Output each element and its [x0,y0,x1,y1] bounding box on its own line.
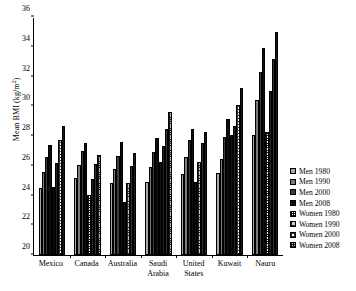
x-axis-category-label: Nauru [247,259,283,278]
y-tick-label: 28 [22,123,34,132]
x-tick-mark [70,255,71,258]
bar-group [247,18,283,255]
bar[interactable] [133,153,136,255]
legend-label: Men 2000 [299,188,330,197]
bar-group [141,18,177,255]
legend-label: Men 1980 [299,167,330,176]
bar[interactable] [97,155,100,255]
legend-item[interactable]: Women 2000 [290,230,340,241]
legend-item[interactable]: Men 2008 [290,198,340,209]
y-tick-label: 24 [22,182,34,191]
bar-group [105,18,141,255]
bar-group [176,18,212,255]
y-tick-label: 26 [22,152,34,161]
y-tick-mark [31,16,34,17]
legend-swatch-icon [290,242,296,248]
x-tick-mark [141,255,142,258]
y-axis-label: Mean BMI (kg/m2) [11,59,22,159]
bar-groups [34,18,283,255]
x-tick-mark [105,255,106,258]
y-tick-label: 34 [22,33,34,42]
y-axis-label-exponent: 2 [11,80,17,83]
x-axis-labels: MexicoCanadaAustraliaSaudiArabiaUnitedSt… [33,259,283,278]
legend: Men 1980Men 1990Men 2000Men 2008Women 19… [290,166,340,251]
y-tick-label: 22 [22,212,34,221]
bar-group [34,18,70,255]
legend-label: Women 1980 [299,209,340,218]
x-axis-category-label: UnitedStates [176,259,212,278]
x-axis-category-label: Canada [69,259,105,278]
legend-swatch-icon [290,179,296,185]
x-tick-mark [247,255,248,258]
bar-group [212,18,248,255]
legend-swatch-icon [290,189,296,195]
legend-label: Men 2008 [299,199,330,208]
y-tick-label: 32 [22,63,34,72]
x-axis-category-label: Kuwait [212,259,248,278]
legend-swatch-icon [290,168,296,174]
x-axis-category-label: Australia [104,259,140,278]
x-axis-category-label: Mexico [33,259,69,278]
bmi-bar-chart: Mean BMI (kg/m2) 202224262830323436 Mexi… [0,0,356,291]
y-tick-label: 30 [22,93,34,102]
legend-item[interactable]: Men 1990 [290,177,340,188]
bar[interactable] [204,132,207,255]
legend-label: Women 2008 [299,241,340,250]
legend-swatch-icon [290,232,296,238]
legend-label: Men 1990 [299,177,330,186]
legend-swatch-icon [290,211,296,217]
bar[interactable] [62,126,65,255]
legend-item[interactable]: Men 2000 [290,187,340,198]
y-tick-label: 20 [22,242,34,251]
legend-item[interactable]: Women 1990 [290,219,340,230]
y-axis-label-main: Mean BMI (kg/m [12,83,21,141]
bar[interactable] [240,88,243,255]
legend-item[interactable]: Women 2008 [290,240,340,251]
legend-label: Women 2000 [299,230,340,239]
y-tick-label: 36 [22,4,34,13]
x-tick-mark [212,255,213,258]
legend-item[interactable]: Women 1980 [290,208,340,219]
y-axis-label-tail: ) [12,77,21,80]
bar-group [70,18,106,255]
legend-label: Women 1990 [299,220,340,229]
bar[interactable] [275,32,278,255]
plot-area: 202224262830323436 [33,18,283,256]
legend-item[interactable]: Men 1980 [290,166,340,177]
legend-swatch-icon [290,200,296,206]
x-axis-category-label: SaudiArabia [140,259,176,278]
x-tick-mark [176,255,177,258]
legend-swatch-icon [290,221,296,227]
bar[interactable] [168,112,171,255]
